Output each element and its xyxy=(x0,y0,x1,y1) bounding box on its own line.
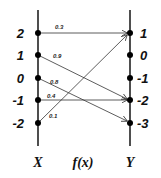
x-value: 2 xyxy=(16,26,25,41)
mapping-diagram: 2 1 0 -1 -2 1 0 -1 -2 -3 0.3 0.9 0.8 0.4… xyxy=(0,0,161,178)
y-value: -3 xyxy=(137,116,149,131)
edge-weights: 0.3 0.9 0.8 0.4 0.1 xyxy=(47,24,64,119)
x-value: -1 xyxy=(12,93,24,108)
x-values: 2 1 0 -1 -2 xyxy=(12,26,24,131)
function-label: f(x) xyxy=(73,155,94,171)
y-value: 1 xyxy=(140,26,147,41)
weight-label: 0.9 xyxy=(53,53,62,59)
weight-label: 0.3 xyxy=(55,24,64,30)
x-value: 0 xyxy=(17,71,25,86)
weight-label: 0.8 xyxy=(50,79,59,85)
x-value: 1 xyxy=(17,48,24,63)
weight-label: 0.1 xyxy=(49,113,58,119)
x-axis-label: X xyxy=(32,155,43,170)
y-axis-label: Y xyxy=(126,155,136,170)
y-value: 0 xyxy=(140,48,148,63)
mapping-arrows xyxy=(38,33,127,123)
weight-label: 0.4 xyxy=(47,93,56,99)
x-value: -2 xyxy=(12,116,24,131)
y-value: -1 xyxy=(137,71,149,86)
y-values: 1 0 -1 -2 -3 xyxy=(137,26,149,131)
y-value: -2 xyxy=(137,93,149,108)
